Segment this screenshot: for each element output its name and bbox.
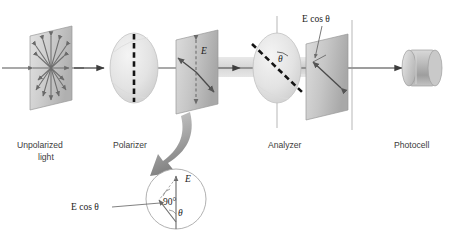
disc-face [253,33,301,103]
polarization-diagram: E θ E cos θ Unpolarized light Polarizer … [0,0,452,240]
label-analyzer: Analyzer [268,140,302,150]
inset-e-cos-theta-label: E cos θ [71,202,99,212]
magnify-curved-arrow [150,112,192,176]
photocell-back-face [428,50,442,86]
unpolarized-light-plane [30,26,72,110]
inset-e-label: E [184,174,191,184]
curved-arrow-shape [150,112,192,176]
analyzer-disc: θ [252,16,302,128]
label-photocell: Photocell [394,140,429,150]
plane-face [306,34,348,120]
theta-analyzer-label: θ [278,54,283,64]
polarized-light-plane: E [176,30,218,114]
plane-face [176,30,218,114]
label-unpolarized-line2: light [38,152,54,162]
photocell-cylinder [402,50,442,86]
inset-theta-label: θ [178,208,183,218]
photocell-front-face [402,50,416,86]
polarizer-disc [110,33,158,103]
e-field-label: E [200,46,207,56]
caption-labels: Unpolarized light Polarizer Analyzer Pho… [17,140,429,162]
figure-canvas: E θ E cos θ Unpolarized light Polarizer … [0,0,452,240]
label-unpolarized-line1: Unpolarized [17,140,63,150]
e-cos-theta-top-label: E cos θ [302,14,330,24]
transmitted-light-plane: E cos θ [302,14,352,130]
label-polarizer: Polarizer [113,140,147,150]
magnified-vector-detail: 90° θ E E cos θ [71,169,206,229]
right-angle-label: 90° [163,197,177,207]
